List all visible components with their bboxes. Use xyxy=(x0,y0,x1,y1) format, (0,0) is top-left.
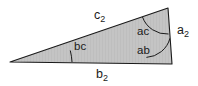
angle-label-bc: bc xyxy=(74,41,86,53)
side-label-b2: b2 xyxy=(96,68,108,81)
side-label-b2-sub: 2 xyxy=(103,73,108,83)
angle-label-ac: ac xyxy=(137,26,149,38)
side-label-c2-sub: 2 xyxy=(100,14,105,24)
geometry-diagram: c2 b2 a2 bc ac ab xyxy=(0,0,198,86)
side-label-a2-base: a xyxy=(177,23,184,37)
side-label-c2: c2 xyxy=(94,9,105,22)
side-label-a2-sub: 2 xyxy=(184,29,189,39)
side-label-b2-base: b xyxy=(96,67,103,81)
angle-label-ab: ab xyxy=(137,45,150,57)
side-label-a2: a2 xyxy=(177,24,189,37)
